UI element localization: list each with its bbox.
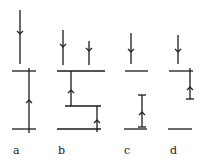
- panel-a: [12, 10, 36, 133]
- panel-c: [124, 33, 148, 129]
- panel-b: [57, 30, 105, 132]
- panel-label-a: a: [13, 145, 20, 156]
- panel-label-b: b: [58, 145, 65, 156]
- panel-label-c: c: [124, 145, 130, 156]
- panel-label-d: d: [170, 145, 177, 156]
- panel-d: [168, 35, 194, 129]
- diagram-canvas: [0, 0, 202, 164]
